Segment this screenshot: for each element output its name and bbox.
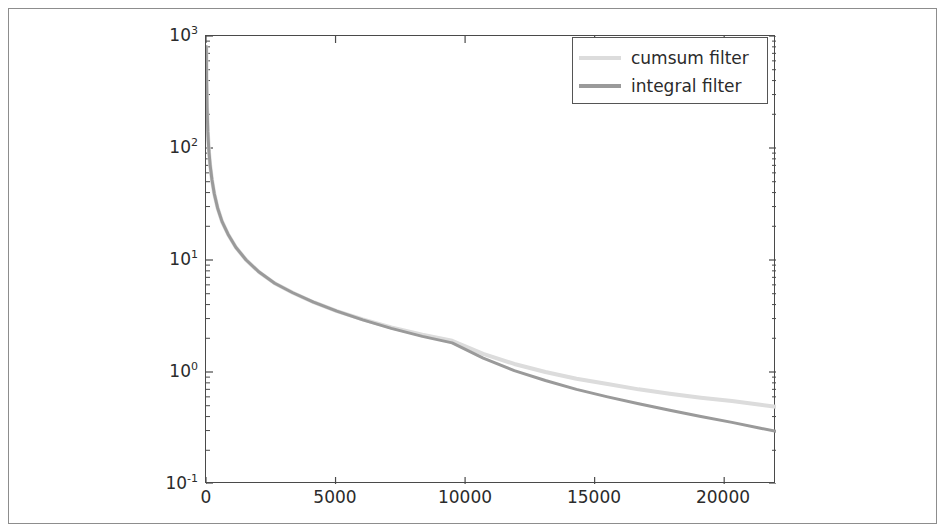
chart-legend: cumsum filter integral filter	[572, 37, 768, 104]
x-tick-label-20000: 20000	[696, 489, 750, 506]
legend-swatch-cumsum-filter	[579, 56, 621, 60]
x-tick-label-5000: 5000	[313, 489, 356, 506]
y-tick-label-10: 101	[154, 251, 198, 268]
legend-entry-cumsum-filter: cumsum filter	[579, 44, 759, 72]
legend-label-integral-filter: integral filter	[631, 78, 742, 95]
legend-entry-integral-filter: integral filter	[579, 72, 759, 100]
x-tick-label-15000: 15000	[567, 489, 621, 506]
y-tick-label-100: 102	[154, 139, 198, 156]
series-line-integral-filter	[206, 47, 776, 432]
y-tick-label-1000: 103	[154, 27, 198, 44]
x-tick-label-10000: 10000	[438, 489, 492, 506]
figure-root: 103 102 101 100 10-1 0 5000 10000 15000 …	[0, 0, 949, 531]
x-tick-label-0: 0	[201, 489, 212, 506]
y-axis-tick-labels: 103 102 101 100 10-1	[150, 0, 198, 531]
data-series-group	[206, 47, 776, 432]
y-tick-label-1: 100	[154, 363, 198, 380]
x-axis-tick-labels: 0 5000 10000 15000 20000	[0, 489, 949, 519]
legend-swatch-integral-filter	[579, 84, 621, 88]
legend-label-cumsum-filter: cumsum filter	[631, 50, 749, 67]
